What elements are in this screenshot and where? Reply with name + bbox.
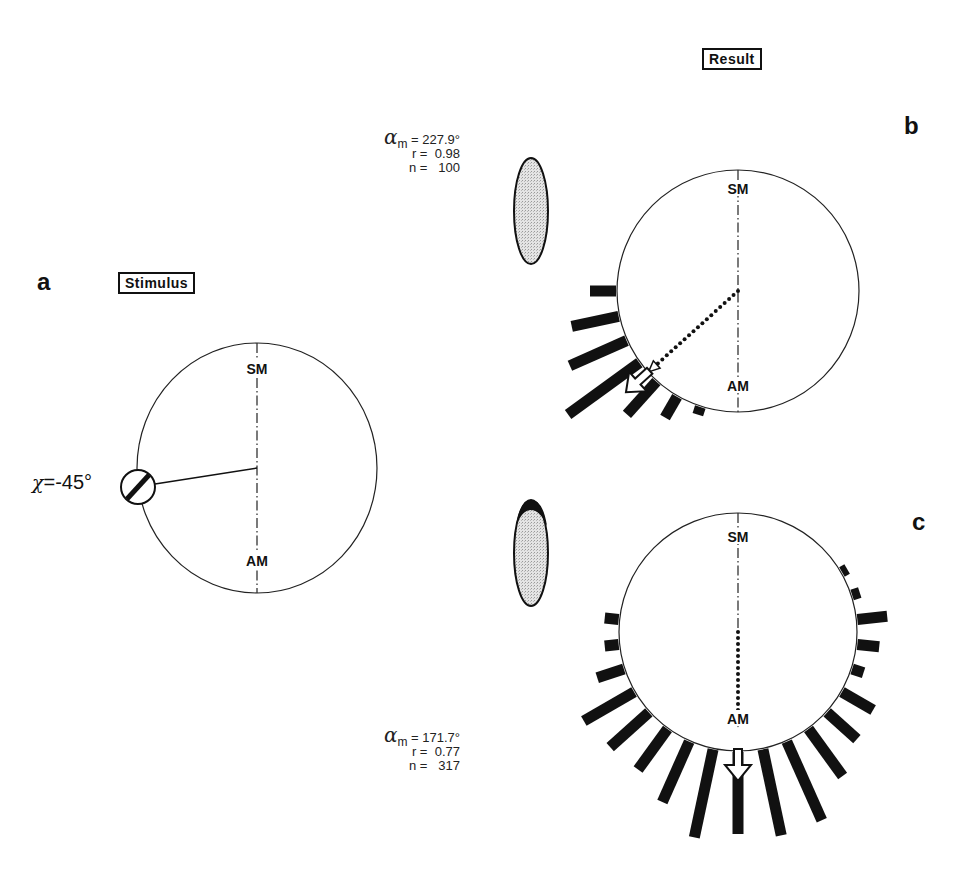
vector-dot [736, 690, 740, 694]
vector-dot [736, 666, 740, 670]
vector-dot [714, 309, 718, 313]
histogram-bar [597, 669, 624, 678]
histogram-bar [763, 749, 781, 835]
histogram-bar [857, 645, 879, 647]
vector-dot [736, 672, 740, 676]
histogram-bar [857, 616, 887, 619]
vector-dot [736, 660, 740, 664]
circular-histogram-b: SM AM [568, 170, 859, 417]
histogram-bar [842, 569, 847, 572]
specimen-icon-c [514, 500, 548, 606]
vector-dot [732, 293, 736, 297]
vector-dot [736, 654, 740, 658]
vector-dot [718, 305, 722, 309]
vector-dot [669, 349, 673, 353]
am-label-c: AM [727, 711, 749, 727]
histogram-bar [852, 669, 863, 673]
vector-dot [700, 321, 704, 325]
histogram-bar [662, 742, 689, 802]
vector-dot [709, 313, 713, 317]
vector-dot [736, 696, 740, 700]
histogram-bar [827, 712, 857, 739]
histogram-bar [787, 742, 822, 821]
histogram-bar [584, 692, 634, 721]
sm-label-c: SM [728, 529, 749, 545]
sm-label-b: SM [728, 181, 749, 197]
histogram-bar [638, 729, 667, 769]
sm-label-a: SM [247, 361, 268, 377]
histogram-bar [570, 341, 627, 366]
vector-dot [705, 317, 709, 321]
vector-dot [660, 357, 664, 361]
polarizer-icon [121, 470, 155, 504]
specimen-icon-b [514, 158, 548, 264]
histogram-bar [842, 692, 873, 710]
histogram-bar [572, 316, 619, 326]
vector-dot [736, 648, 740, 652]
histogram-bar [809, 729, 843, 776]
vector-dot [683, 337, 687, 341]
vector-dot [736, 636, 740, 640]
am-label-b: AM [727, 378, 749, 394]
vector-dot [727, 297, 731, 301]
histogram-bar [665, 397, 677, 418]
histogram-bar [605, 645, 619, 646]
vector-dot [674, 345, 678, 349]
vector-dot [723, 301, 727, 305]
mean-vector-b [626, 289, 740, 392]
vector-dot [691, 329, 695, 333]
histogram-bar [694, 749, 713, 837]
histogram-bar [852, 592, 860, 594]
histogram-bar [698, 407, 700, 415]
vector-dot [736, 289, 740, 293]
vector-dot [736, 642, 740, 646]
vector-dot [696, 325, 700, 329]
mean-vector-c [725, 630, 751, 781]
vector-dot [687, 333, 691, 337]
histogram-bar [605, 618, 619, 619]
mean-direction-arrow-icon [725, 749, 751, 781]
histogram-bar [610, 712, 649, 747]
vector-dot [736, 630, 740, 634]
vector-dot [665, 353, 669, 357]
vector-dot [678, 341, 682, 345]
vector-dot [736, 702, 740, 706]
stimulus-arena-a: SM AM [121, 343, 377, 593]
vector-dot [736, 684, 740, 688]
histogram-bars-c [584, 569, 887, 837]
vector-dot [736, 678, 740, 682]
figure-canvas: SM AM SM AM SM AM [0, 0, 971, 875]
am-label-a: AM [246, 553, 268, 569]
circular-histogram-c: SM AM [584, 513, 887, 837]
